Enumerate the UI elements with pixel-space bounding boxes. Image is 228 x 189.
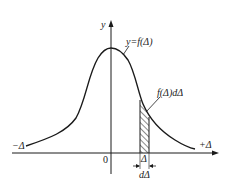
- area-leader-line: [146, 97, 160, 112]
- delta-label: Δ: [140, 153, 147, 164]
- x-axis-arrow-icon: [212, 151, 219, 156]
- y-axis-label: y: [100, 19, 106, 30]
- arrow-left-icon: [149, 164, 153, 168]
- pos-delta-label: +Δ: [199, 139, 212, 150]
- neg-delta-label: −Δ: [12, 140, 25, 151]
- distribution-diagram: y y=f(Δ) f(Δ)dΔ −Δ +Δ 0 Δ dΔ: [0, 0, 228, 189]
- shaded-area: [140, 95, 149, 153]
- area-label: f(Δ)dΔ: [157, 87, 183, 99]
- d-delta-label: dΔ: [139, 169, 150, 180]
- arrow-right-icon: [136, 164, 140, 168]
- curve-leader-line: [123, 46, 129, 55]
- origin-label: 0: [103, 154, 108, 165]
- curve-label: y=f(Δ): [125, 36, 153, 48]
- y-axis-arrow-icon: [109, 20, 114, 27]
